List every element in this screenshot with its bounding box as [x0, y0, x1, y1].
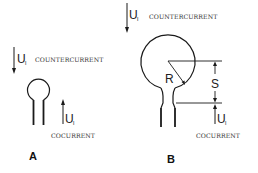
panel-b: U l COUNTERCURRENT R S	[125, 3, 241, 165]
panel-b-spacing-label: S	[211, 77, 219, 91]
panel-b-spacing-arrow-up-icon	[213, 62, 217, 67]
panel-a-cocurrent-subscript: l	[73, 120, 74, 126]
panel-a-label: A	[29, 150, 37, 162]
panel-a-bulb-tube	[28, 79, 50, 125]
panel-b-radius-label: R	[165, 72, 174, 86]
panel-b-label: B	[167, 153, 175, 165]
diagram-canvas: U l COUNTERCURRENT U l COCURRENT A U l C…	[0, 0, 258, 173]
panel-a-countercurrent-arrow-icon	[12, 47, 16, 74]
panel-a: U l COUNTERCURRENT U l COCURRENT A	[12, 47, 104, 162]
panel-a-cocurrent-label: COCURRENT	[51, 132, 96, 139]
panel-b-cocurrent-subscript: l	[225, 120, 226, 126]
panel-a-countercurrent-subscript: l	[25, 60, 26, 66]
panel-b-spacing-arrow-down-icon	[213, 98, 217, 103]
panel-a-countercurrent-label: COUNTERCURRENT	[35, 56, 104, 63]
panel-b-cocurrent-label: COCURRENT	[196, 132, 241, 139]
panel-b-countercurrent-label: COUNTERCURRENT	[149, 13, 218, 20]
panel-b-countercurrent-subscript: l	[137, 16, 138, 22]
